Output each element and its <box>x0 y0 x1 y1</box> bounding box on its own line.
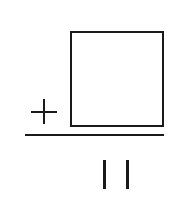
digit-one-icon <box>126 160 129 189</box>
sum-line <box>25 134 164 136</box>
operator-label: + <box>0 0 1 1</box>
answer-box[interactable] <box>70 31 164 127</box>
plus-icon-vertical <box>43 99 45 124</box>
digit-one-icon <box>103 160 106 189</box>
